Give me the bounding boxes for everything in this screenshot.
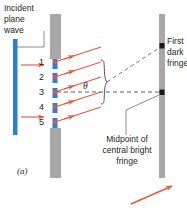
barrier-lower xyxy=(50,128,61,178)
incident-wavefront-bar xyxy=(13,39,18,135)
angle-theta-label: θ xyxy=(83,81,88,91)
incident-plane-wave-label-line3: wave xyxy=(4,25,24,36)
first-dark-fringe-marker xyxy=(160,43,165,49)
ray-number-1: 1 xyxy=(39,58,44,67)
path-to-first-dark-fringe xyxy=(107,46,162,82)
single-slit-diffraction-figure: Incident plane wave 1 2 3 4 5 θ First da… xyxy=(0,0,187,208)
ray-grouping-brace xyxy=(101,60,107,104)
ray-number-4: 4 xyxy=(39,103,44,112)
first-dark-fringe-label-line1: First xyxy=(167,36,184,47)
incident-plane-wave-label-line1: Incident xyxy=(4,3,34,14)
central-bright-fringe-marker xyxy=(160,90,165,96)
midpoint-label-line2: central bright xyxy=(82,145,172,156)
midpoint-label-line1: Midpoint of xyxy=(82,134,172,145)
diagram-canvas xyxy=(0,0,187,208)
incident-plane-wave-label-line2: plane xyxy=(4,14,25,25)
first-dark-fringe-label-line2: dark xyxy=(167,47,184,58)
midpoint-leader-line xyxy=(126,95,159,135)
diffracted-rays xyxy=(55,47,101,122)
ray-number-3: 3 xyxy=(39,88,44,97)
first-dark-fringe-label-line3: fringe xyxy=(167,58,187,69)
ray-number-5: 5 xyxy=(39,118,44,127)
ray-number-2: 2 xyxy=(39,73,44,82)
midpoint-label-line3: fringe xyxy=(82,156,172,167)
next-panel-arrow xyxy=(131,186,172,204)
panel-label: (a) xyxy=(17,166,28,176)
diffracted-ray-arrowheads xyxy=(64,56,74,119)
barrier-upper xyxy=(50,14,61,59)
